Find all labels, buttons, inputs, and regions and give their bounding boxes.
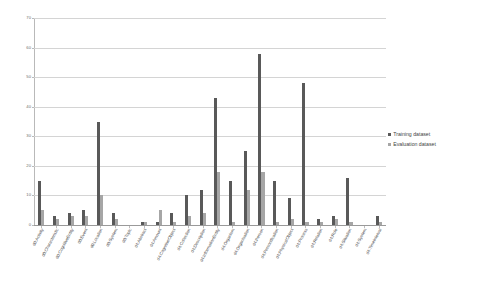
y-axis-tick-label: 60 bbox=[26, 45, 31, 49]
legend-label: Evaluation dataset bbox=[393, 142, 436, 148]
legend-swatch-evaluation bbox=[388, 143, 391, 146]
bar-evaluation bbox=[56, 219, 59, 225]
bar-group bbox=[137, 18, 152, 225]
y-axis-tick-label: 0 bbox=[29, 223, 31, 227]
bar-group bbox=[327, 18, 342, 225]
legend-item: Evaluation dataset bbox=[388, 142, 436, 148]
x-axis-category-label: d4:Abstract bbox=[134, 228, 148, 249]
bar-group bbox=[283, 18, 298, 225]
bar-evaluation bbox=[217, 172, 220, 225]
bar-group bbox=[49, 18, 64, 225]
y-axis-tick-label: 30 bbox=[26, 134, 31, 138]
bar-evaluation bbox=[173, 222, 176, 225]
bar-evaluation bbox=[232, 222, 235, 225]
x-axis-category-label: d4:Organism bbox=[221, 228, 236, 251]
x-axis-category-label: d4:Relation bbox=[310, 228, 324, 249]
x-axis-category-label: d4:Person bbox=[252, 228, 265, 247]
bar-group bbox=[269, 18, 284, 225]
chart-legend: Training datasetEvaluation dataset bbox=[388, 132, 436, 151]
bar-evaluation bbox=[349, 222, 352, 225]
bar-training bbox=[302, 83, 305, 225]
bar-group bbox=[210, 18, 225, 225]
y-axis-tick-label: 20 bbox=[26, 164, 31, 168]
bar-evaluation bbox=[41, 210, 44, 225]
bar-evaluation bbox=[203, 213, 206, 225]
bar-evaluation bbox=[115, 219, 118, 225]
bar-training bbox=[229, 181, 232, 225]
x-axis-category-label: d4:Role bbox=[328, 228, 339, 243]
bar-evaluation bbox=[71, 216, 74, 225]
bar-evaluation bbox=[85, 216, 88, 225]
y-axis-tick-label: 50 bbox=[26, 75, 31, 79]
bar-training bbox=[273, 181, 276, 225]
x-axis-category-label: d4:System bbox=[355, 228, 368, 248]
bar-chart: 010203040506070 d0:Activityd0:Characteri… bbox=[0, 0, 480, 285]
bar-evaluation bbox=[276, 222, 279, 225]
bar-group bbox=[107, 18, 122, 225]
bar-group bbox=[357, 18, 372, 225]
x-axis-category-label: d0:Event bbox=[78, 228, 90, 245]
x-axis-category-label: d4:Amount bbox=[149, 228, 162, 248]
bar-evaluation bbox=[159, 210, 162, 225]
bar-evaluation bbox=[247, 190, 250, 225]
bar-group bbox=[254, 18, 269, 225]
bar-evaluation bbox=[188, 216, 191, 225]
legend-label: Training dataset bbox=[393, 132, 430, 138]
bar-evaluation bbox=[305, 222, 308, 225]
bar-training bbox=[346, 178, 349, 225]
x-axis-category-label: d0:Topic bbox=[122, 228, 133, 244]
x-axis-category-label: d4:TimeInterval bbox=[365, 228, 382, 255]
x-axis-category-label: d4:Situation bbox=[339, 228, 353, 250]
bar-group bbox=[239, 18, 254, 225]
bar-evaluation bbox=[379, 222, 382, 225]
bar-evaluation bbox=[261, 172, 264, 225]
bar-group bbox=[78, 18, 93, 225]
x-axis-category-label: d0:Activity bbox=[32, 228, 45, 247]
x-axis-category-label: d4:Process bbox=[295, 228, 309, 249]
legend-swatch-training bbox=[388, 133, 391, 136]
bar-group bbox=[34, 18, 49, 225]
bar-group bbox=[166, 18, 181, 225]
x-axis-category-labels: d0:Activityd0:Characteristicd0:Cognitive… bbox=[34, 226, 386, 284]
x-axis-category-label: d4:Collection bbox=[177, 228, 192, 251]
bar-groups bbox=[34, 18, 386, 225]
bar-group bbox=[93, 18, 108, 225]
bar-evaluation bbox=[320, 222, 323, 225]
y-axis-tick-label: 70 bbox=[26, 16, 31, 20]
bar-group bbox=[151, 18, 166, 225]
legend-item: Training dataset bbox=[388, 132, 436, 138]
plot-area: 010203040506070 bbox=[34, 18, 386, 225]
bar-group bbox=[225, 18, 240, 225]
bar-group bbox=[63, 18, 78, 225]
bar-group bbox=[298, 18, 313, 225]
y-axis-tick-label: 10 bbox=[26, 193, 31, 197]
bar-group bbox=[371, 18, 386, 225]
x-axis-category-label: d0:System bbox=[105, 228, 118, 248]
x-axis-category-label: d4:Organisation bbox=[233, 228, 251, 256]
bar-evaluation bbox=[335, 219, 338, 225]
bar-evaluation bbox=[144, 222, 147, 225]
bar-group bbox=[122, 18, 137, 225]
bar-group bbox=[195, 18, 210, 225]
bar-group bbox=[181, 18, 196, 225]
y-axis-tick-label: 40 bbox=[26, 105, 31, 109]
x-axis-category-label: d0:Location bbox=[90, 228, 104, 249]
bar-group bbox=[342, 18, 357, 225]
bar-evaluation bbox=[100, 195, 103, 225]
bar-group bbox=[313, 18, 328, 225]
bar-evaluation bbox=[291, 219, 294, 225]
